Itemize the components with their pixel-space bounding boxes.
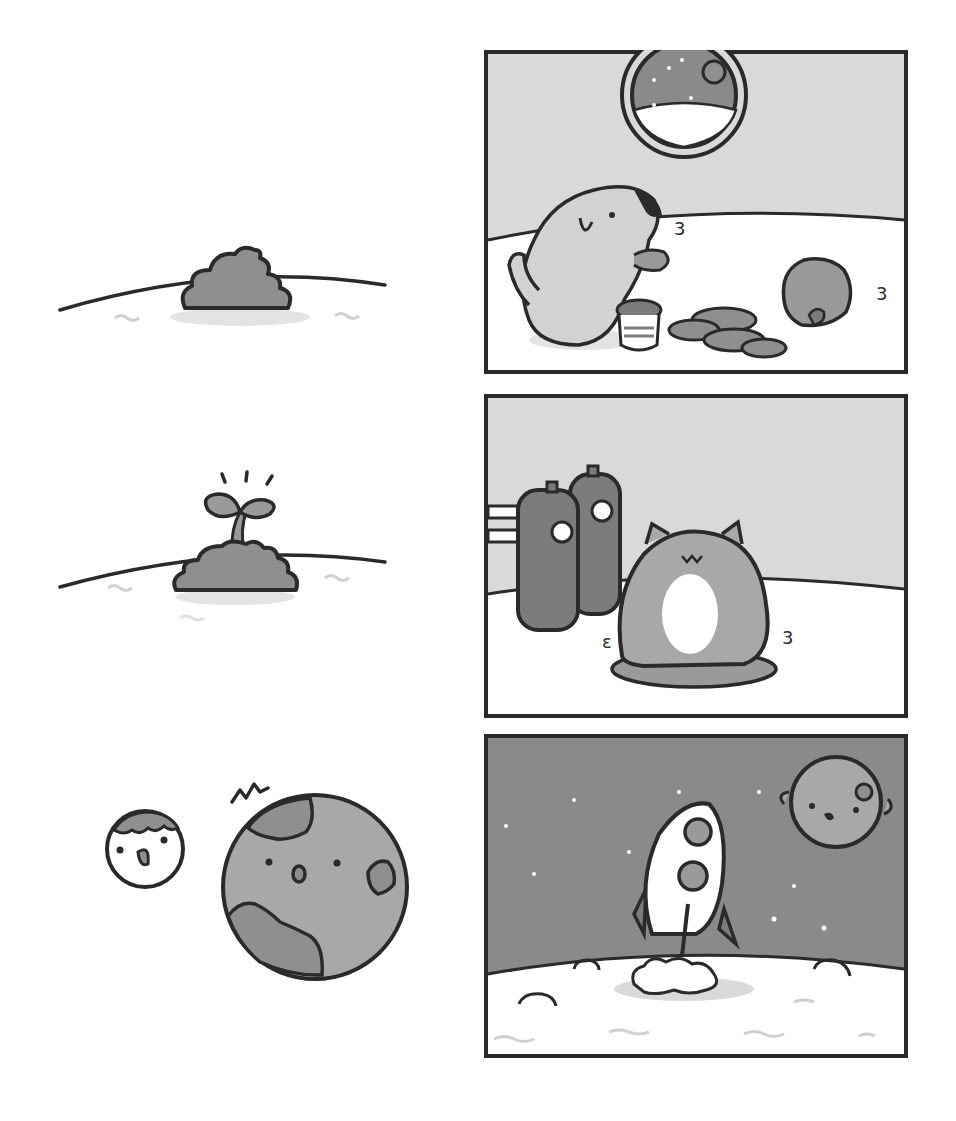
soil-mound-illustration xyxy=(50,230,400,340)
moon-planet-illustration xyxy=(90,770,420,990)
shake-mark-right: 3 xyxy=(782,627,793,648)
shake-mark-left: ε xyxy=(602,631,612,652)
panel-space-base-cookies: 3 3 xyxy=(484,50,908,374)
panel-angry-cat-tanks: ε 3 xyxy=(484,394,908,718)
exhaust-cloud xyxy=(633,958,717,993)
surprise-marks xyxy=(232,784,268,802)
panel-2-illustration: ε 3 xyxy=(484,394,908,718)
vignette-sprout xyxy=(50,460,400,630)
sprout-illustration xyxy=(50,460,400,630)
panel-1-illustration: 3 3 xyxy=(484,50,908,374)
chomp-sound: 3 xyxy=(674,218,685,239)
porthole-window xyxy=(622,50,746,157)
oxygen-tanks xyxy=(518,466,620,630)
large-planet xyxy=(223,795,407,979)
vignette-moon-and-planet xyxy=(90,770,420,990)
small-moon xyxy=(107,811,183,887)
sparkle-lines xyxy=(222,472,272,484)
panel-rocket-launch xyxy=(484,734,908,1058)
cat-character xyxy=(783,259,850,326)
munch-sound: 3 xyxy=(876,283,887,304)
cookie-pot xyxy=(617,300,661,350)
vignette-soil-mound xyxy=(50,230,400,340)
panel-3-illustration xyxy=(484,734,908,1058)
